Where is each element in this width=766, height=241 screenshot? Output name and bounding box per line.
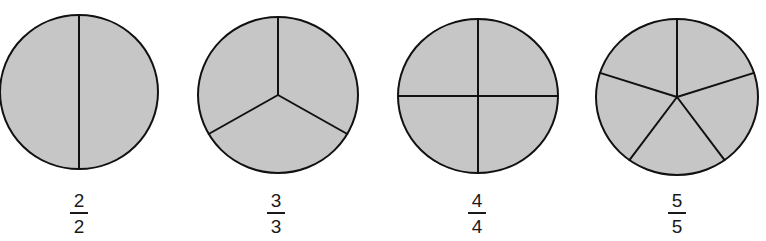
fraction-bar: [267, 212, 285, 214]
fraction-label-thirds: 3 3: [261, 191, 291, 236]
circle-thirds: [198, 17, 358, 173]
fraction-numerator: 5: [662, 191, 692, 210]
fraction-numerator: 2: [64, 191, 94, 210]
fraction-bar: [468, 212, 486, 214]
circle-halves: [0, 15, 158, 169]
fraction-circles-diagram: [0, 0, 766, 241]
fraction-label-fourths: 4 4: [462, 191, 492, 236]
fraction-denominator: 4: [462, 217, 492, 236]
fraction-denominator: 5: [662, 217, 692, 236]
circle-fourths: [398, 19, 558, 173]
fraction-bar: [70, 212, 88, 214]
fraction-label-halves: 2 2: [64, 191, 94, 236]
fraction-numerator: 3: [261, 191, 291, 210]
fraction-bar: [668, 212, 686, 214]
fraction-numerator: 4: [462, 191, 492, 210]
fraction-denominator: 2: [64, 217, 94, 236]
fraction-label-fifths: 5 5: [662, 191, 692, 236]
circle-fifths: [596, 19, 758, 175]
fraction-denominator: 3: [261, 217, 291, 236]
